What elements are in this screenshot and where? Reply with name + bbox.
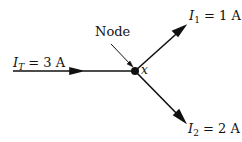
branch1-current-label: I1 = 1 A <box>189 9 241 22</box>
total-current-label: IT = 3 A <box>13 56 65 69</box>
incoming-arrow-icon <box>70 68 82 74</box>
branch2-current-value: = 2 A <box>203 121 240 136</box>
node-name: x <box>141 64 148 76</box>
total-current-value: = 3 A <box>28 55 65 70</box>
total-current-subscript: T <box>18 62 24 72</box>
node-dot <box>131 67 139 75</box>
branch2-current-label: I2 = 2 A <box>188 122 240 135</box>
branch1-current-value: = 1 A <box>204 8 241 23</box>
branch1-current-subscript: 1 <box>194 15 200 25</box>
node-label: Node <box>95 25 130 38</box>
branch2-current-subscript: 2 <box>193 128 199 138</box>
